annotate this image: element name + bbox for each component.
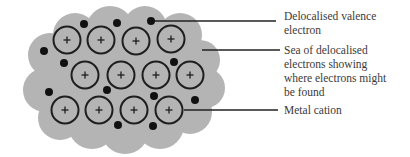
electron-dot-icon bbox=[147, 17, 155, 25]
electron-dot-icon bbox=[113, 19, 121, 27]
electron-dot-icon bbox=[149, 122, 157, 130]
electron-dot-icon bbox=[170, 58, 178, 66]
electron-dot-icon bbox=[103, 86, 111, 94]
label-sea-of-delocalised-electrons: Sea of delocalised electrons showing whe… bbox=[284, 43, 386, 99]
electron-dot-icon bbox=[191, 96, 199, 104]
label-delocalised-valence-electron: Delocalised valence electron bbox=[284, 9, 376, 37]
electron-dot-icon bbox=[150, 92, 158, 100]
electron-dot-icon bbox=[80, 20, 88, 28]
electron-dot-icon bbox=[114, 121, 122, 129]
label-metal-cation: Metal cation bbox=[284, 103, 342, 117]
electron-dot-icon bbox=[40, 47, 48, 55]
electron-dot-icon bbox=[45, 88, 53, 96]
electron-sea-cloud bbox=[23, 6, 225, 154]
electron-dot-icon bbox=[60, 59, 68, 67]
